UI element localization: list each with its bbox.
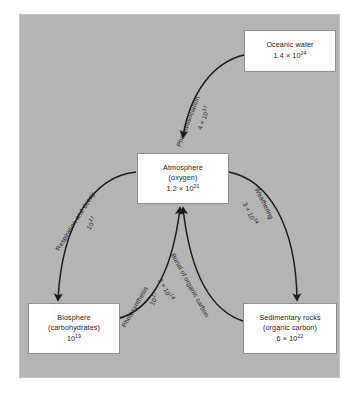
- figure-canvas: Oceanic water 1.4 × 1024 Atmosphere (oxy…: [0, 0, 353, 393]
- node-title: Sedimentary rocks: [259, 313, 320, 323]
- node-value: 1.4 × 1024: [274, 51, 307, 61]
- node-oceanic-water[interactable]: Oceanic water 1.4 × 1024: [244, 30, 336, 72]
- arrow-photodissociation: [183, 55, 244, 137]
- node-subtitle: (organic carbon): [263, 323, 317, 333]
- node-atmosphere[interactable]: Atmosphere (oxygen) 1.2 × 1021: [137, 153, 229, 204]
- node-title: Oceanic water: [266, 40, 313, 50]
- node-value: 1019: [67, 334, 81, 344]
- node-title: Biosphere: [57, 313, 90, 323]
- arrow-burial-of-organic-carbon: [183, 208, 246, 322]
- node-value: 6 × 1022: [277, 334, 304, 344]
- node-title: Atmosphere: [163, 163, 203, 173]
- node-value: 1.2 × 1021: [167, 184, 200, 194]
- node-subtitle: (carbohydrates): [48, 323, 100, 333]
- node-biosphere[interactable]: Biosphere (carbohydrates) 1019: [28, 303, 120, 354]
- arrow-photosynthesis: [110, 208, 180, 320]
- node-sedimentary-rocks[interactable]: Sedimentary rocks (organic carbon) 6 × 1…: [243, 303, 337, 354]
